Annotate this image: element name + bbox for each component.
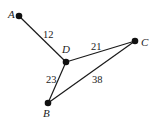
node-C xyxy=(132,38,139,45)
node-label-B: B xyxy=(43,107,50,119)
node-label-A: A xyxy=(7,8,15,20)
node-D xyxy=(63,59,70,66)
edges xyxy=(19,16,135,103)
node-B xyxy=(45,100,52,107)
edge-weight-A-D: 12 xyxy=(43,29,54,40)
edge-weight-B-C: 38 xyxy=(92,74,103,85)
node-label-C: C xyxy=(141,36,149,48)
edge-weight-D-B: 23 xyxy=(46,74,57,85)
nodes xyxy=(16,13,139,107)
node-label-D: D xyxy=(61,43,70,55)
node-A xyxy=(16,13,23,20)
edge-weight-D-C: 21 xyxy=(91,41,102,52)
edge-weights: 12 21 23 38 xyxy=(43,29,103,85)
weighted-graph-diagram: A D C B 12 21 23 38 xyxy=(0,0,159,129)
